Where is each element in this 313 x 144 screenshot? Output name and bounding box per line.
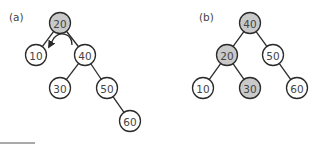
tree-edge [42,31,53,46]
tree-node-30: 30 [50,78,71,99]
tree-edge [233,64,244,80]
rotation-arrow-icon [50,34,72,45]
node-value: 20 [220,50,233,62]
tree-edges [42,31,291,112]
node-value: 60 [123,116,136,128]
node-value: 40 [78,50,91,62]
node-value: 10 [29,50,42,62]
avl-rotation-diagram: 201040305060402050103060 (a)(b) [0,0,313,144]
node-value: 30 [53,83,66,95]
panel-labels: (a)(b) [9,11,214,23]
tree-edge [66,63,78,79]
tree-node-20: 20 [217,45,238,66]
tree-edge [279,63,291,79]
tree-node-10: 10 [26,45,47,66]
tree-edge [209,63,221,79]
panel-label: (b) [199,11,214,23]
tree-edge [256,32,267,47]
node-value: 40 [243,18,256,30]
node-value: 60 [290,83,303,95]
tree-nodes: 201040305060402050103060 [26,13,308,132]
node-value: 30 [243,83,256,95]
node-value: 10 [196,83,209,95]
node-value: 50 [100,83,113,95]
panel-label: (a) [9,11,24,23]
tree-node-40: 40 [75,45,96,66]
tree-edge [91,64,101,80]
tree-node-50: 50 [97,78,118,99]
tree-node-60: 60 [287,78,308,99]
tree-node-10: 10 [193,78,214,99]
tree-edge [113,97,124,113]
tree-edge [233,32,244,47]
tree-node-60: 60 [120,111,141,132]
node-value: 20 [53,18,66,30]
tree-node-30: 30 [240,78,261,99]
tree-node-40: 40 [240,13,261,34]
node-value: 50 [266,50,279,62]
tree-node-20: 20 [50,13,71,34]
tree-node-50: 50 [263,45,284,66]
